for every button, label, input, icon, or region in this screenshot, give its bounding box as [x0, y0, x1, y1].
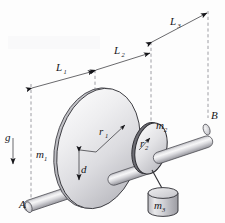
- label-m2-subscript: 2: [164, 126, 168, 133]
- background-watermark: [8, 36, 100, 49]
- label-L1-subscript: 1: [64, 68, 67, 75]
- label-g: g: [5, 131, 11, 143]
- label-L1: L: [55, 61, 62, 73]
- mechanics-diagram: L 1 L 2 L 3 g: [0, 0, 225, 223]
- label-m1-subscript: 1: [44, 155, 47, 162]
- shaft-end-cap-B: [202, 123, 212, 136]
- label-A: A: [18, 198, 26, 210]
- block-top: [148, 188, 178, 199]
- label-m2: m: [156, 119, 164, 131]
- label-r1: r: [99, 125, 104, 137]
- label-m1: m: [36, 148, 44, 160]
- label-L3: L: [169, 15, 176, 27]
- label-m3: m: [154, 199, 162, 211]
- label-d: d: [81, 163, 87, 175]
- figure-canvas: L 1 L 2 L 3 g: [0, 0, 225, 223]
- label-L2-subscript: 2: [122, 51, 126, 58]
- gravity-indicator: g: [5, 131, 13, 164]
- label-r1-subscript: 1: [105, 132, 108, 139]
- label-L3-subscript: 3: [177, 22, 182, 29]
- label-L2: L: [113, 44, 120, 56]
- label-B: B: [211, 109, 218, 121]
- cord: [152, 170, 163, 190]
